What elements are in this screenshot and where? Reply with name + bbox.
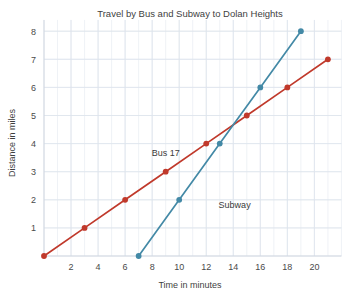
y-tick-label: 5	[31, 111, 36, 121]
x-tick-label: 2	[69, 262, 74, 272]
y-axis-title: Distance in miles	[7, 108, 17, 177]
x-tick-label: 18	[282, 262, 292, 272]
y-tick-label: 3	[31, 167, 36, 177]
y-tick-label: 6	[31, 83, 36, 93]
data-point-marker	[298, 28, 304, 34]
x-axis-title: Time in minutes	[158, 280, 222, 290]
data-point-marker	[82, 225, 88, 231]
data-point-marker	[284, 85, 290, 91]
x-tick-label: 16	[255, 262, 265, 272]
data-point-marker	[325, 56, 331, 62]
chart-container: Travel by Bus and Subway to Dolan Height…	[0, 0, 344, 295]
data-point-marker	[217, 141, 223, 147]
data-point-marker	[163, 169, 169, 175]
data-point-marker	[257, 85, 263, 91]
data-point-marker	[176, 197, 182, 203]
series-label-subway: Subway	[219, 200, 252, 210]
y-tick-label: 2	[31, 195, 36, 205]
data-point-marker	[41, 253, 47, 259]
series-label-bus-17: Bus 17	[152, 148, 180, 158]
x-tick-label: 20	[309, 262, 319, 272]
data-point-marker	[203, 141, 209, 147]
y-tick-label: 4	[31, 139, 36, 149]
line-chart: Travel by Bus and Subway to Dolan Height…	[0, 0, 344, 295]
x-tick-label: 8	[150, 262, 155, 272]
x-tick-label: 12	[201, 262, 211, 272]
x-tick-label: 4	[96, 262, 101, 272]
x-tick-label: 10	[174, 262, 184, 272]
x-tick-label: 6	[123, 262, 128, 272]
x-tick-label: 14	[228, 262, 238, 272]
y-tick-label: 1	[31, 223, 36, 233]
data-point-marker	[244, 113, 250, 119]
y-tick-label: 8	[31, 27, 36, 37]
y-tick-label: 7	[31, 55, 36, 65]
data-point-marker	[136, 253, 142, 259]
chart-title: Travel by Bus and Subway to Dolan Height…	[97, 8, 283, 19]
data-point-marker	[122, 197, 128, 203]
